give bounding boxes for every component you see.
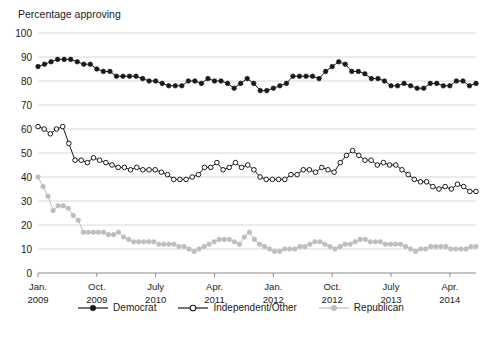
data-point bbox=[418, 180, 423, 185]
data-point bbox=[326, 168, 331, 173]
data-point bbox=[193, 79, 198, 84]
data-point bbox=[292, 247, 297, 252]
data-point bbox=[196, 172, 201, 177]
data-point bbox=[330, 64, 335, 69]
data-point bbox=[343, 242, 348, 247]
data-point bbox=[272, 249, 277, 254]
x-axis-tick-label-month: July bbox=[147, 281, 164, 292]
data-point bbox=[474, 189, 479, 194]
data-point bbox=[308, 242, 313, 247]
data-point bbox=[344, 153, 349, 158]
data-point bbox=[378, 240, 383, 245]
data-point bbox=[190, 175, 195, 180]
data-point bbox=[381, 160, 386, 165]
data-point bbox=[258, 175, 263, 180]
data-point bbox=[225, 81, 230, 86]
series-line-independent-other bbox=[38, 127, 476, 192]
data-point bbox=[282, 177, 287, 182]
data-point bbox=[319, 165, 324, 170]
data-point bbox=[277, 249, 282, 254]
data-point bbox=[323, 242, 328, 247]
data-point bbox=[131, 240, 136, 245]
data-point bbox=[469, 244, 474, 249]
data-point bbox=[413, 249, 418, 254]
data-point bbox=[239, 165, 244, 170]
data-point bbox=[202, 244, 207, 249]
data-point bbox=[437, 187, 442, 192]
data-point bbox=[449, 247, 454, 252]
data-point bbox=[464, 247, 469, 252]
data-point bbox=[106, 232, 111, 237]
legend-label: Independent/Other bbox=[213, 302, 296, 313]
data-point bbox=[91, 230, 96, 235]
data-point bbox=[208, 165, 213, 170]
data-point bbox=[474, 81, 479, 86]
chart-legend: DemocratIndependent/OtherRepublican bbox=[0, 302, 482, 313]
data-point bbox=[363, 72, 368, 77]
legend-marker-icon bbox=[319, 303, 349, 313]
data-point bbox=[443, 244, 448, 249]
data-point bbox=[73, 158, 78, 163]
data-point bbox=[91, 156, 96, 161]
data-point bbox=[289, 172, 294, 177]
data-point bbox=[333, 247, 338, 252]
data-point bbox=[433, 244, 438, 249]
data-point bbox=[418, 247, 423, 252]
data-point bbox=[121, 74, 126, 79]
data-point bbox=[307, 168, 312, 173]
data-point bbox=[468, 189, 473, 194]
data-point bbox=[247, 230, 252, 235]
data-point bbox=[76, 218, 81, 223]
data-point bbox=[282, 247, 287, 252]
data-point bbox=[56, 204, 61, 209]
data-point bbox=[41, 184, 46, 189]
data-point bbox=[153, 79, 158, 84]
data-point bbox=[36, 64, 41, 69]
data-point bbox=[212, 240, 217, 245]
data-point bbox=[96, 230, 101, 235]
data-point bbox=[147, 79, 152, 84]
data-point bbox=[237, 242, 242, 247]
data-point bbox=[206, 76, 211, 81]
data-point bbox=[400, 168, 405, 173]
data-point bbox=[111, 232, 116, 237]
data-point bbox=[86, 230, 91, 235]
data-point bbox=[395, 84, 400, 89]
data-point bbox=[403, 244, 408, 249]
legend-item-democrat[interactable]: Democrat bbox=[78, 302, 156, 313]
data-point bbox=[114, 74, 119, 79]
data-point bbox=[116, 230, 121, 235]
data-point bbox=[423, 247, 428, 252]
y-axis-tick-label: 90 bbox=[21, 52, 33, 63]
data-point bbox=[177, 244, 182, 249]
data-point bbox=[443, 184, 448, 189]
data-point bbox=[147, 168, 152, 173]
legend-item-independent-other[interactable]: Independent/Other bbox=[178, 302, 296, 313]
data-point bbox=[60, 124, 65, 129]
data-point bbox=[474, 244, 479, 249]
data-point bbox=[421, 86, 426, 91]
data-point bbox=[134, 74, 139, 79]
data-point bbox=[227, 237, 232, 242]
data-point bbox=[251, 81, 256, 86]
data-point bbox=[455, 182, 460, 187]
data-point bbox=[388, 242, 393, 247]
data-point bbox=[412, 177, 417, 182]
data-point bbox=[108, 69, 113, 74]
y-axis-tick-label: 50 bbox=[21, 148, 33, 159]
data-point bbox=[173, 84, 178, 89]
data-point bbox=[171, 177, 176, 182]
legend-marker-icon bbox=[78, 303, 108, 313]
y-axis-tick-label: 0 bbox=[26, 268, 32, 279]
data-point bbox=[467, 84, 472, 89]
data-point bbox=[428, 244, 433, 249]
data-point bbox=[192, 249, 197, 254]
data-point bbox=[402, 81, 407, 86]
data-point bbox=[151, 240, 156, 245]
data-point bbox=[104, 160, 109, 165]
data-point bbox=[270, 177, 275, 182]
data-point bbox=[197, 247, 202, 252]
data-point bbox=[159, 170, 164, 175]
data-point bbox=[284, 81, 289, 86]
legend-item-republican[interactable]: Republican bbox=[319, 302, 404, 313]
